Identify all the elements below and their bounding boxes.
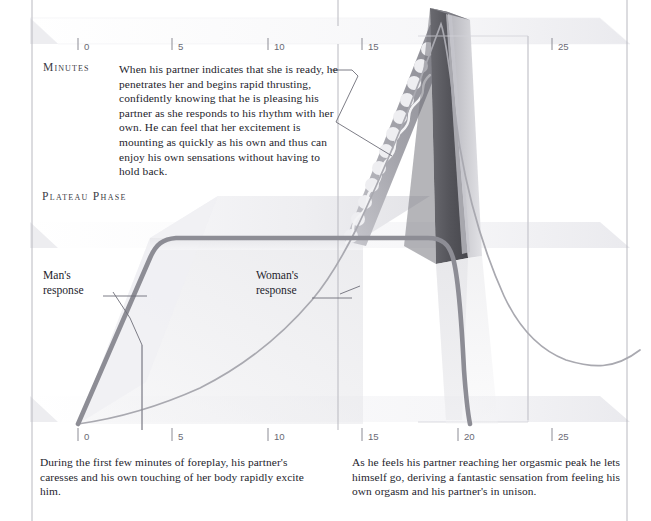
tick-label-bottom-5: 5: [178, 431, 183, 442]
tick-label-bottom-15: 15: [368, 431, 379, 442]
caption-bottom-right: As he feels his partner reaching her org…: [352, 455, 634, 499]
tick-label-bottom-10: 10: [274, 431, 285, 442]
tick-label-top-5: 5: [178, 41, 183, 52]
tick-label-bottom-25: 25: [558, 431, 569, 442]
series-label-man: Man's response: [43, 269, 84, 298]
axis-title-minutes: Minutes: [43, 61, 89, 74]
axis-ticks-bottom: [78, 428, 552, 441]
caption-bottom-left: During the first few minutes of foreplay…: [40, 455, 315, 499]
tick-label-top-25: 25: [558, 41, 569, 52]
figure-canvas: 0 5 10 15 25 0 5 10 15 20 25 Minutes Pla…: [0, 0, 651, 521]
series-label-woman: Woman's response: [256, 269, 298, 298]
tick-label-top-15: 15: [368, 41, 379, 52]
series-label-woman-line1: Woman's: [256, 269, 298, 284]
tick-label-bottom-20: 20: [464, 431, 475, 442]
tick-label-top-0: 0: [84, 41, 89, 52]
phase-label-plateau: Plateau Phase: [42, 190, 127, 203]
series-label-man-line1: Man's: [43, 269, 84, 284]
series-label-woman-line2: response: [256, 284, 298, 299]
tick-label-bottom-0: 0: [84, 431, 89, 442]
caption-top: When his partner indicates that she is r…: [119, 62, 341, 179]
tick-label-top-10: 10: [274, 41, 285, 52]
series-label-man-line2: response: [43, 284, 84, 299]
